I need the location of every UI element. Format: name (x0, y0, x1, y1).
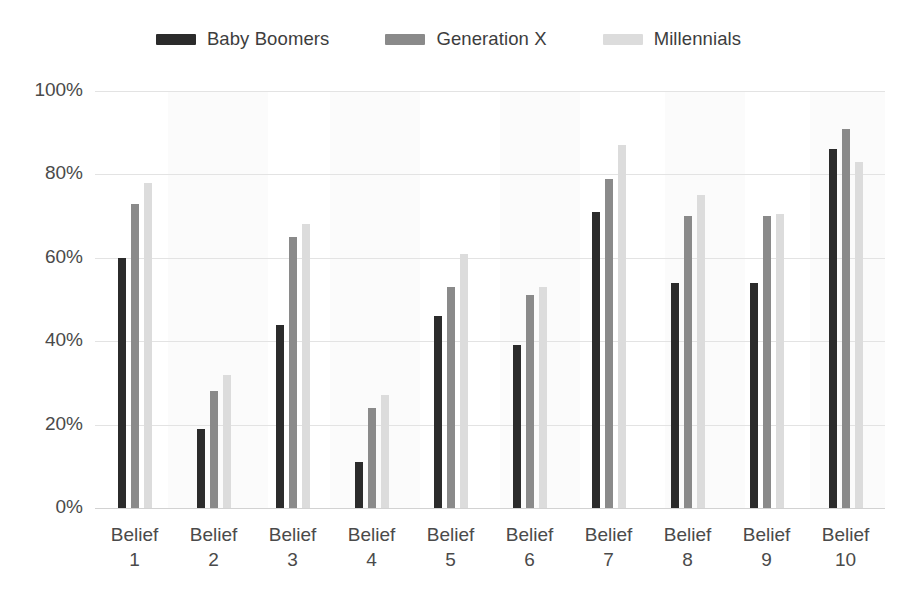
grouped-bar-chart: 100% 80% 60% 40% 20% 0% Belief1Belief2Be… (0, 0, 897, 611)
y-tick-label-0: 0% (5, 496, 83, 518)
x-axis-label-number: 2 (174, 547, 253, 572)
bar[interactable] (513, 345, 521, 508)
x-axis-label-word: Belief (411, 522, 490, 547)
bar[interactable] (447, 287, 455, 508)
bar-group (806, 91, 885, 508)
bar[interactable] (210, 391, 218, 508)
bar-group (332, 91, 411, 508)
x-axis-label-word: Belief (332, 522, 411, 547)
x-axis-label: Belief10 (806, 522, 885, 572)
y-tick-label-20: 20% (5, 413, 83, 435)
bar[interactable] (539, 287, 547, 508)
x-axis-label-number: 5 (411, 547, 490, 572)
bar[interactable] (302, 224, 310, 508)
bar[interactable] (750, 283, 758, 508)
x-axis-label-number: 4 (332, 547, 411, 572)
x-axis-label: Belief3 (253, 522, 332, 572)
x-axis-label-word: Belief (253, 522, 332, 547)
bar[interactable] (355, 462, 363, 508)
x-axis-label-word: Belief (490, 522, 569, 547)
bar[interactable] (460, 254, 468, 508)
bar-group (253, 91, 332, 508)
bar[interactable] (223, 375, 231, 508)
bar[interactable] (118, 258, 126, 508)
plot-area: 100% 80% 60% 40% 20% 0% (95, 91, 885, 508)
x-axis-label-number: 6 (490, 547, 569, 572)
x-axis-label-number: 3 (253, 547, 332, 572)
x-axis-label: Belief2 (174, 522, 253, 572)
bar[interactable] (592, 212, 600, 508)
bar[interactable] (776, 214, 784, 508)
bar[interactable] (434, 316, 442, 508)
bar[interactable] (842, 129, 850, 508)
x-axis-label-number: 8 (648, 547, 727, 572)
x-axis-label: Belief9 (727, 522, 806, 572)
x-axis-label-word: Belief (569, 522, 648, 547)
y-tick-label-40: 40% (5, 329, 83, 351)
x-axis-label-number: 9 (727, 547, 806, 572)
x-axis-label: Belief6 (490, 522, 569, 572)
bar[interactable] (144, 183, 152, 508)
bar-group (648, 91, 727, 508)
x-axis-label: Belief8 (648, 522, 727, 572)
y-tick-label-100: 100% (5, 79, 83, 101)
x-axis-label-word: Belief (806, 522, 885, 547)
bar-group (569, 91, 648, 508)
x-axis-label-word: Belief (174, 522, 253, 547)
bar[interactable] (684, 216, 692, 508)
bar[interactable] (131, 204, 139, 508)
bar-group (411, 91, 490, 508)
x-axis-label: Belief4 (332, 522, 411, 572)
x-axis-label-word: Belief (727, 522, 806, 547)
gridline-0-baseline (95, 508, 885, 509)
bar[interactable] (289, 237, 297, 508)
x-axis-label-number: 7 (569, 547, 648, 572)
bar-group (490, 91, 569, 508)
bar[interactable] (381, 395, 389, 508)
bar[interactable] (368, 408, 376, 508)
x-axis-label: Belief1 (95, 522, 174, 572)
bar-group (174, 91, 253, 508)
bar[interactable] (697, 195, 705, 508)
bar[interactable] (763, 216, 771, 508)
x-axis-label-word: Belief (95, 522, 174, 547)
x-axis-label: Belief7 (569, 522, 648, 572)
bar[interactable] (671, 283, 679, 508)
y-tick-label-60: 60% (5, 246, 83, 268)
bar[interactable] (197, 429, 205, 508)
bar-group (727, 91, 806, 508)
bar[interactable] (829, 149, 837, 508)
x-axis-label-number: 10 (806, 547, 885, 572)
bar[interactable] (855, 162, 863, 508)
x-axis-label-word: Belief (648, 522, 727, 547)
bar-group (95, 91, 174, 508)
x-axis-label: Belief5 (411, 522, 490, 572)
x-axis-label-number: 1 (95, 547, 174, 572)
bar[interactable] (618, 145, 626, 508)
y-tick-label-80: 80% (5, 162, 83, 184)
bar[interactable] (276, 325, 284, 508)
bar[interactable] (605, 179, 613, 508)
bar[interactable] (526, 295, 534, 508)
